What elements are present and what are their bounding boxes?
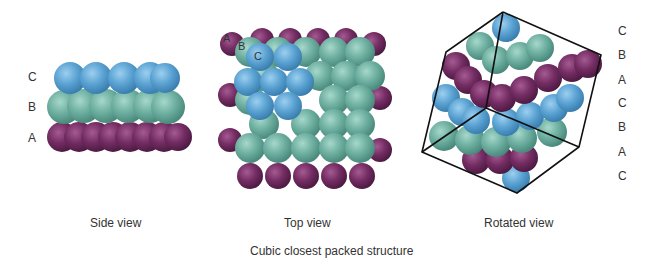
rotated-view-caption: Rotated view — [484, 216, 553, 230]
layer-label-b-1: B — [618, 48, 626, 62]
layer-label-a-1: A — [618, 73, 626, 87]
side-view-caption: Side view — [90, 216, 141, 230]
layer-label-a-2: A — [618, 145, 626, 159]
figure-title: Cubic closest packed structure — [250, 244, 413, 258]
layer-label-b-2: B — [618, 120, 626, 134]
layer-label-c-1: C — [618, 24, 627, 38]
rotated-view-spheres — [0, 0, 656, 210]
layer-label-c-3: C — [618, 169, 627, 183]
layer-label-c-2: C — [618, 96, 627, 110]
top-view-caption: Top view — [284, 216, 331, 230]
